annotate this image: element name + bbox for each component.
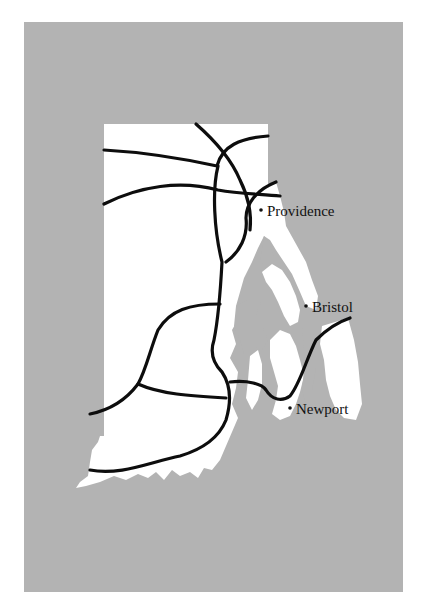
water-narragansett-bay [234, 290, 268, 354]
land-jamestown [246, 350, 262, 410]
city-dot-icon [304, 304, 308, 308]
rhode-island-map: Providence Bristol Newport [0, 0, 426, 615]
city-label: Providence [267, 203, 335, 219]
city-dot-icon [259, 208, 263, 212]
city-dot-icon [288, 406, 292, 410]
city-providence[interactable]: Providence [259, 203, 335, 219]
city-bristol[interactable]: Bristol [304, 299, 353, 315]
city-label: Newport [296, 401, 349, 417]
city-label: Bristol [312, 299, 353, 315]
city-newport[interactable]: Newport [288, 401, 349, 417]
